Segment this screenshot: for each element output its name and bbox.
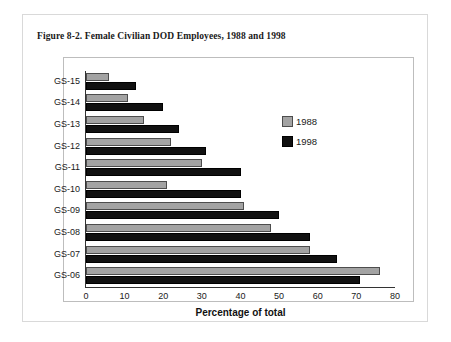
y-axis-tick-label: GS-15 bbox=[54, 76, 80, 86]
legend-swatch-1998-icon bbox=[282, 136, 293, 147]
plot-area: Percentage of total GS-15GS-14GS-13GS-12… bbox=[85, 71, 395, 288]
x-axis-title: Percentage of total bbox=[195, 307, 285, 318]
figure-container: Figure 8-2. Female Civilian DOD Employee… bbox=[22, 14, 428, 322]
bar-1998-GS-14 bbox=[86, 103, 163, 111]
chart-legend: 1988 1998 bbox=[282, 114, 352, 154]
y-axis-tick-label: GS-13 bbox=[54, 119, 80, 129]
bar-1988-GS-06 bbox=[86, 267, 380, 275]
bar-1998-GS-12 bbox=[86, 147, 206, 155]
legend-item-1998: 1998 bbox=[282, 134, 352, 149]
bar-1988-GS-11 bbox=[86, 159, 202, 167]
x-axis-tick-label: 70 bbox=[351, 291, 361, 301]
bar-1998-GS-13 bbox=[86, 125, 179, 133]
bar-group: GS-11 bbox=[86, 157, 395, 179]
legend-label-1998: 1998 bbox=[296, 136, 317, 147]
bar-group: GS-08 bbox=[86, 222, 395, 244]
bar-group: GS-15 bbox=[86, 71, 395, 93]
bar-1988-GS-09 bbox=[86, 202, 244, 210]
x-axis-tick-label: 30 bbox=[197, 291, 207, 301]
bar-1998-GS-09 bbox=[86, 211, 279, 219]
y-axis-tick-label: GS-12 bbox=[54, 141, 80, 151]
figure-title: Figure 8-2. Female Civilian DOD Employee… bbox=[37, 31, 286, 41]
y-axis-tick-label: GS-08 bbox=[54, 227, 80, 237]
bar-1988-GS-10 bbox=[86, 181, 167, 189]
x-axis-tick-label: 80 bbox=[390, 291, 400, 301]
y-axis-tick-label: GS-09 bbox=[54, 205, 80, 215]
bar-1998-GS-06 bbox=[86, 276, 360, 284]
bar-1988-GS-12 bbox=[86, 138, 171, 146]
bar-1998-GS-15 bbox=[86, 82, 136, 90]
x-axis-tick-label: 50 bbox=[274, 291, 284, 301]
bar-1998-GS-08 bbox=[86, 233, 310, 241]
bar-1988-GS-15 bbox=[86, 73, 109, 81]
y-axis-tick-label: GS-07 bbox=[54, 249, 80, 259]
x-axis-tick-label: 60 bbox=[313, 291, 323, 301]
legend-swatch-1988-icon bbox=[282, 116, 293, 127]
x-axis-tick-label: 20 bbox=[158, 291, 168, 301]
bar-group: GS-14 bbox=[86, 93, 395, 115]
bar-1998-GS-11 bbox=[86, 168, 241, 176]
bar-1988-GS-14 bbox=[86, 94, 128, 102]
bar-1988-GS-13 bbox=[86, 116, 144, 124]
y-axis-tick-label: GS-06 bbox=[54, 270, 80, 280]
bar-group: GS-07 bbox=[86, 244, 395, 266]
bar-group: GS-09 bbox=[86, 201, 395, 223]
x-axis-tick-label: 40 bbox=[235, 291, 245, 301]
x-axis-tick-label: 10 bbox=[120, 291, 130, 301]
y-axis-tick-label: GS-14 bbox=[54, 97, 80, 107]
x-axis-tick-label: 0 bbox=[83, 291, 88, 301]
plot-frame: Percentage of total GS-15GS-14GS-13GS-12… bbox=[63, 57, 414, 302]
y-axis-tick-label: GS-10 bbox=[54, 184, 80, 194]
bar-1988-GS-07 bbox=[86, 246, 310, 254]
bar-1998-GS-07 bbox=[86, 255, 337, 263]
y-axis-tick-label: GS-11 bbox=[55, 162, 80, 172]
bar-1998-GS-10 bbox=[86, 190, 241, 198]
legend-item-1988: 1988 bbox=[282, 114, 352, 129]
bar-group: GS-10 bbox=[86, 179, 395, 201]
legend-label-1988: 1988 bbox=[296, 116, 317, 127]
bar-1988-GS-08 bbox=[86, 224, 271, 232]
bar-group: GS-06 bbox=[86, 265, 395, 287]
